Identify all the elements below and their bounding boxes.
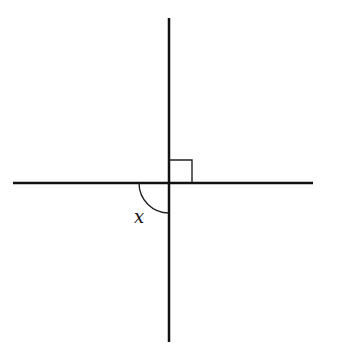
geometry-diagram: x: [0, 0, 337, 357]
right-angle-marker: [169, 160, 192, 183]
angle-label-x: x: [134, 206, 144, 227]
